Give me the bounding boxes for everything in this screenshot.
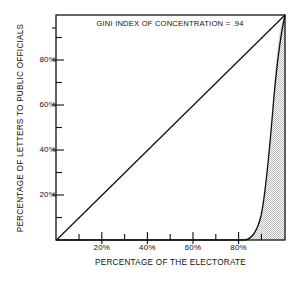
x-tick-label-60: 60% bbox=[173, 243, 213, 252]
chart-title: GINI INDEX OF CONCENTRATION = .94 bbox=[70, 19, 270, 28]
x-tick-label-40: 40% bbox=[127, 243, 167, 252]
lorenz-curve-figure: GINI INDEX OF CONCENTRATION = .94 PERCEN… bbox=[0, 0, 299, 284]
x-tick-label-20: 20% bbox=[82, 243, 122, 252]
y-tick-label-20: 20% bbox=[16, 190, 56, 199]
y-tick-label-60: 60% bbox=[16, 100, 56, 109]
y-axis-label: PERCENTAGE OF LETTERS TO PUBLIC OFFICIAL… bbox=[14, 12, 28, 244]
x-tick-label-80: 80% bbox=[219, 243, 259, 252]
chart-plot-area bbox=[0, 0, 299, 284]
y-tick-label-80: 80% bbox=[16, 55, 56, 64]
x-axis-label: PERCENTAGE OF THE ELECTORATE bbox=[56, 258, 285, 267]
y-tick-label-40: 40% bbox=[16, 145, 56, 154]
